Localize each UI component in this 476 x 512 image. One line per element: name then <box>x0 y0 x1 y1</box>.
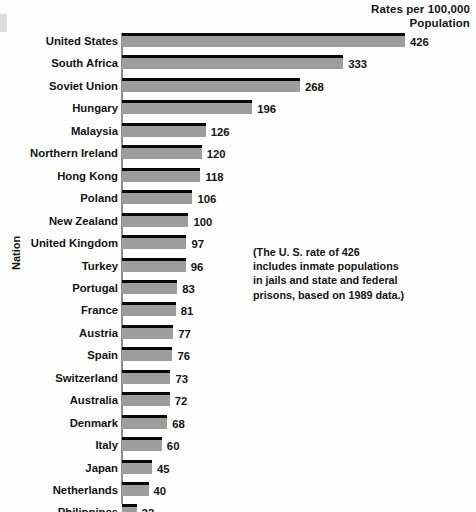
bar-row: Denmark68 <box>0 415 476 437</box>
bar-value-label: 196 <box>257 102 276 116</box>
category-label: Soviet Union <box>0 79 118 93</box>
bar-row: New Zealand100 <box>0 213 476 235</box>
bar <box>122 437 162 451</box>
bar <box>122 55 343 69</box>
bar-row: Japan45 <box>0 460 476 482</box>
bar <box>122 100 252 114</box>
annotation-line-2: includes inmate populations <box>253 259 433 273</box>
bar-row: Northern Ireland120 <box>0 145 476 167</box>
category-label: Northern Ireland <box>0 146 118 160</box>
bar-row: Malaysia126 <box>0 123 476 145</box>
bar-fill <box>122 482 149 496</box>
bar-value-label: 100 <box>193 215 212 229</box>
bar-fill <box>122 504 137 512</box>
bar-value-label: 96 <box>191 260 204 274</box>
bar-fill <box>122 460 152 474</box>
bar-row: Italy60 <box>0 437 476 459</box>
bar <box>122 235 186 249</box>
bar <box>122 78 300 92</box>
category-label: South Africa <box>0 56 118 70</box>
annotation-line-4: prisons, based on 1989 data.) <box>253 288 433 302</box>
bar-row: Soviet Union268 <box>0 78 476 100</box>
bar <box>122 460 152 474</box>
category-label: Italy <box>0 438 118 452</box>
bar-row: South Africa333 <box>0 55 476 77</box>
bar-value-label: 106 <box>197 192 216 206</box>
bar-fill <box>122 258 186 272</box>
category-label: Malaysia <box>0 124 118 138</box>
bar <box>122 370 170 384</box>
bar <box>122 33 405 47</box>
bar-fill <box>122 302 176 316</box>
category-label: United Kingdom <box>0 236 118 250</box>
annotation-line-1: (The U. S. rate of 426 <box>253 245 433 259</box>
bar-value-label: 120 <box>207 147 226 161</box>
bar-row: Poland106 <box>0 190 476 212</box>
category-label: Poland <box>0 191 118 205</box>
bar-fill <box>122 168 200 182</box>
bar-value-label: 126 <box>211 125 230 139</box>
category-label: Philippines <box>0 505 118 512</box>
bar <box>122 392 170 406</box>
bar-value-label: 22 <box>142 506 155 512</box>
bar-fill <box>122 100 252 114</box>
bar-fill <box>122 190 192 204</box>
bar <box>122 213 188 227</box>
bar-value-label: 72 <box>175 394 188 408</box>
bar-fill <box>122 213 188 227</box>
bar-value-label: 83 <box>182 282 195 296</box>
bar-fill <box>122 392 170 406</box>
category-label: Hong Kong <box>0 169 118 183</box>
bar-value-label: 97 <box>191 237 204 251</box>
bar-value-label: 77 <box>178 327 191 341</box>
bar <box>122 123 206 137</box>
bar-fill <box>122 123 206 137</box>
bar <box>122 504 137 512</box>
category-label: New Zealand <box>0 214 118 228</box>
bar <box>122 325 173 339</box>
bar-row: France81 <box>0 302 476 324</box>
category-label: Denmark <box>0 416 118 430</box>
bar-fill <box>122 55 343 69</box>
bar <box>122 280 177 294</box>
bar <box>122 168 200 182</box>
bar-fill <box>122 33 405 47</box>
bar-row: Austria77 <box>0 325 476 347</box>
category-label: Spain <box>0 348 118 362</box>
bar-fill <box>122 235 186 249</box>
category-label: Hungary <box>0 101 118 115</box>
bar-value-label: 60 <box>167 439 180 453</box>
chart-page: Rates per 100,000 Population Nation Unit… <box>0 0 476 512</box>
bar-row: Australia72 <box>0 392 476 414</box>
category-label: Austria <box>0 326 118 340</box>
bar-value-label: 68 <box>172 417 185 431</box>
bar-fill <box>122 347 172 361</box>
bar <box>122 302 176 316</box>
bar-row: United States426 <box>0 33 476 55</box>
category-label: Japan <box>0 461 118 475</box>
bar-value-label: 40 <box>154 484 167 498</box>
bar-value-label: 118 <box>205 170 223 184</box>
bar-row: Switzerland73 <box>0 370 476 392</box>
bar <box>122 415 167 429</box>
category-label: Switzerland <box>0 371 118 385</box>
bar-fill <box>122 415 167 429</box>
bar <box>122 258 186 272</box>
chart-annotation-note: (The U. S. rate of 426 includes inmate p… <box>253 245 433 302</box>
category-label: United States <box>0 34 118 48</box>
bar-value-label: 73 <box>175 372 188 386</box>
bar <box>122 347 172 361</box>
category-label: Portugal <box>0 281 118 295</box>
bar-row: Spain76 <box>0 347 476 369</box>
bar-fill <box>122 325 173 339</box>
bar-fill <box>122 370 170 384</box>
bar-fill <box>122 280 177 294</box>
category-label: Netherlands <box>0 483 118 497</box>
bar <box>122 482 149 496</box>
bar-value-label: 76 <box>177 349 190 363</box>
bar-row: Netherlands40 <box>0 482 476 504</box>
bar-row: Hungary196 <box>0 100 476 122</box>
bar-fill <box>122 145 202 159</box>
bar <box>122 145 202 159</box>
category-label: Turkey <box>0 259 118 273</box>
